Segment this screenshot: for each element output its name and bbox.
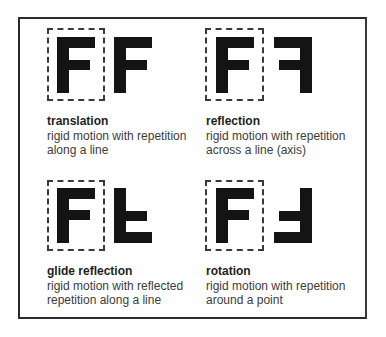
caption-reflection: reflection rigid motion with repetition … — [206, 114, 345, 158]
caption-line: rigid motion with repetition — [47, 129, 186, 144]
original-f-glyph — [216, 188, 254, 243]
glide-reflected-f-glyph — [114, 188, 152, 243]
rotated-f-glyph — [274, 188, 312, 243]
original-f-glyph — [57, 188, 95, 243]
caption-title: reflection — [206, 114, 345, 129]
original-f-glyph — [216, 37, 254, 93]
caption-line: around a point — [206, 293, 345, 308]
reflected-f-glyph — [274, 37, 312, 93]
original-f-glyph — [57, 37, 95, 93]
caption-line: repetition along a line — [47, 293, 183, 308]
caption-line: across a line (axis) — [206, 143, 345, 158]
translated-f-glyph — [114, 37, 152, 93]
caption-rotation: rotation rigid motion with repetition ar… — [206, 264, 345, 308]
caption-glide-reflection: glide reflection rigid motion with refle… — [47, 264, 183, 308]
caption-line: rigid motion with reflected — [47, 279, 183, 294]
caption-title: translation — [47, 114, 186, 129]
caption-line: rigid motion with repetition — [206, 129, 345, 144]
caption-line: along a line — [47, 143, 186, 158]
caption-translation: translation rigid motion with repetition… — [47, 114, 186, 158]
caption-line: rigid motion with repetition — [206, 279, 345, 294]
caption-title: rotation — [206, 264, 345, 279]
caption-title: glide reflection — [47, 264, 183, 279]
